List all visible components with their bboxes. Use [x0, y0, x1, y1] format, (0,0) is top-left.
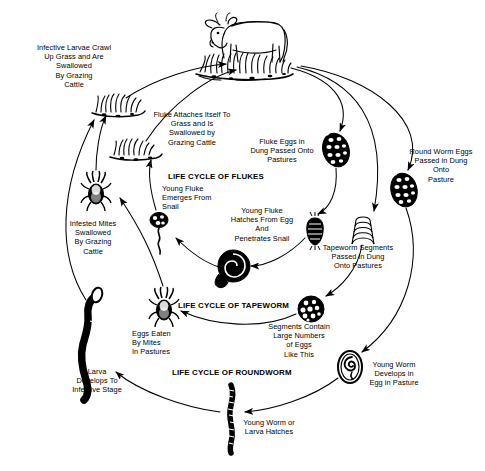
- fluke-egg-icon: [318, 130, 353, 170]
- label-larva-develops-infective: Larva Develops To Infective Stage: [66, 367, 128, 395]
- label-tapeworm-segments-passed: Tapeworm Segments Passed in Dung Onto Pa…: [316, 243, 400, 271]
- label-young-worm-larva-hatches: Young Worm or Larva Hatches: [236, 418, 302, 436]
- section-heading-tapeworm: LIFE CYCLE OF TAPEWORM: [178, 301, 289, 311]
- roundworm-egg-icon: [338, 351, 362, 383]
- tapeworm-egg-ball-icon: [298, 296, 324, 322]
- section-heading-roundworm: LIFE CYCLE OF ROUNDWORM: [172, 368, 292, 378]
- tapeworm-segment-icon: [352, 217, 374, 244]
- mite-icon: [81, 171, 111, 211]
- label-infective-larvae-crawl: Infective Larvae Crawl Up Grass and Are …: [18, 43, 130, 89]
- label-fluke-attaches-itself: Fluke Attaches Itself To Grass and Is Sw…: [144, 110, 240, 147]
- parasite-life-cycle-diagram: LIFE CYCLE OF FLUKES LIFE CYCLE OF TAPEW…: [0, 0, 485, 471]
- label-infested-mites-swallowed: Infested Mites Swallowed By Grazing Catt…: [62, 219, 124, 256]
- grass-tuft-icon: [92, 94, 145, 117]
- snail-icon: [215, 250, 250, 288]
- label-young-worm-develops: Young Worm Develops in Egg in Pasture: [363, 360, 425, 388]
- label-fluke-eggs-in-dung: Fluke Eggs in Dung Passed Onto Pastures: [246, 137, 318, 165]
- grass-tuft-icon: [196, 53, 293, 80]
- mite-icon: [149, 287, 179, 327]
- label-young-fluke-emerges: Young Fluke Emerges From Snail: [162, 184, 228, 212]
- label-young-fluke-hatches: Young Fluke Hatches From Egg And Penetra…: [226, 206, 298, 243]
- cow-icon: [205, 13, 287, 62]
- label-round-worm-eggs-passed: Round Worm Eggs Passed in Dung Onto Past…: [400, 147, 482, 184]
- young-fluke-icon: [150, 213, 168, 255]
- label-segments-contain-eggs: Segments Contain Large Numbers of Eggs L…: [262, 322, 336, 359]
- label-eggs-eaten-by-mites: Eggs Eaten By Mites In Pastures: [132, 329, 190, 357]
- section-heading-flukes: LIFE CYCLE OF FLUKES: [168, 172, 264, 182]
- young-worm-icon: [228, 385, 235, 453]
